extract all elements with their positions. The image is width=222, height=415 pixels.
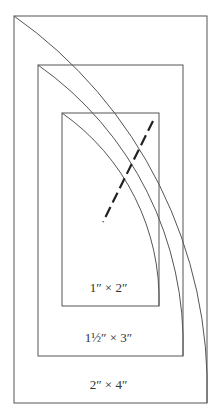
inner-rectangle-label: 1″ × 2″ [90, 280, 128, 295]
middle-rectangle-group: 1½″ × 3″ [38, 65, 183, 356]
inner-rectangle-group: 1″ × 2″ [62, 113, 159, 306]
inner-rectangle [62, 113, 159, 306]
dashed-diagonal-line [103, 121, 153, 222]
middle-rectangle-label: 1½″ × 3″ [85, 330, 132, 345]
middle-arc [38, 65, 183, 356]
outer-rectangle-label: 2″ × 4″ [90, 377, 128, 392]
middle-rectangle [38, 65, 183, 356]
inner-arc [62, 113, 159, 306]
nested-rectangles-diagram: 2″ × 4″ 1½″ × 3″ 1″ × 2″ [0, 0, 222, 415]
